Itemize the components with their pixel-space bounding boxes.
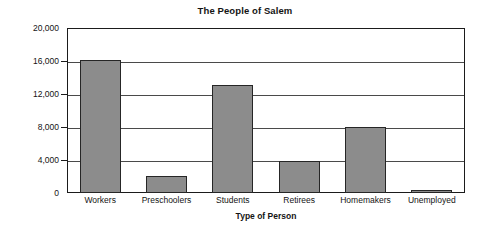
gridline (68, 161, 464, 162)
x-axis-tick-label: Preschoolers (133, 195, 199, 205)
y-axis-tick-mark (61, 127, 67, 128)
gridline (68, 95, 464, 96)
plot-area (67, 28, 465, 193)
gridline (68, 62, 464, 63)
y-axis-tick-label: 0 (3, 188, 59, 198)
y-axis-tick-mark (61, 94, 67, 95)
bar-chart: The People of Salem Number Living in Sal… (0, 0, 490, 239)
x-axis-tick-label: Students (200, 195, 266, 205)
gridline (68, 128, 464, 129)
y-axis-tick-label: 16,000 (3, 56, 59, 66)
x-axis-tick-label: Workers (67, 195, 133, 205)
x-axis-title: Type of Person (67, 211, 465, 221)
y-axis-tick-mark (61, 160, 67, 161)
y-axis-tick-mark (61, 61, 67, 62)
x-axis-tick-labels: WorkersPreschoolersStudentsRetireesHomem… (67, 195, 465, 205)
x-axis-tick-label: Retirees (266, 195, 332, 205)
y-axis-tick-label: 8,000 (3, 122, 59, 132)
x-axis-tick-label: Unemployed (399, 195, 465, 205)
y-axis-tick-label: 20,000 (3, 23, 59, 33)
chart-title: The People of Salem (0, 5, 490, 16)
y-axis-tick-label: 12,000 (3, 89, 59, 99)
x-axis-tick-label: Homemakers (332, 195, 398, 205)
y-axis-tick-label: 4,000 (3, 155, 59, 165)
